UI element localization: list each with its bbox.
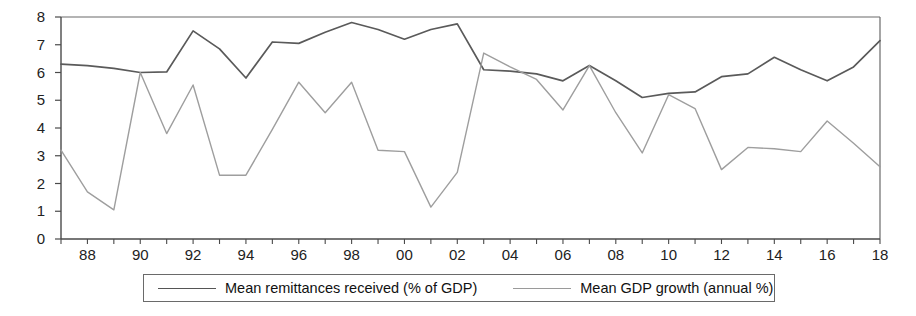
legend-item-remittances: Mean remittances received (% of GDP) [144,275,477,301]
x-axis-tick-label: 02 [437,247,477,262]
line-chart-plot [0,0,916,316]
x-axis-tick-label: 10 [649,247,689,262]
y-axis-tick-label: 6 [21,65,45,80]
x-axis-tick-label: 94 [226,247,266,262]
series-line-remittances [61,23,880,98]
chart-container: 0123456788890929496980002040608101214161… [0,0,916,316]
x-axis-tick-label: 92 [173,247,213,262]
x-axis-tick-label: 90 [120,247,160,262]
series-line-gdp-growth [61,53,880,210]
x-axis-tick-label: 14 [754,247,794,262]
y-axis-tick-label: 3 [21,148,45,163]
legend-label-remittances: Mean remittances received (% of GDP) [225,281,477,296]
x-axis-tick-label: 16 [807,247,847,262]
x-axis-tick-label: 08 [596,247,636,262]
y-axis-tick-label: 1 [21,203,45,218]
x-axis-tick-label: 12 [701,247,741,262]
x-axis-tick-label: 98 [332,247,372,262]
legend-line-swatch-gdp-growth-icon [513,288,571,289]
x-axis-tick-label: 06 [543,247,583,262]
y-axis-tick-label: 8 [21,9,45,24]
x-axis-tick-label: 18 [860,247,900,262]
x-axis-tick-label: 00 [384,247,424,262]
x-axis-tick-label: 88 [67,247,107,262]
y-axis-tick-label: 2 [21,176,45,191]
y-axis-tick-label: 7 [21,37,45,52]
y-axis-tick-label: 4 [21,120,45,135]
y-axis-tick-label: 0 [21,231,45,246]
y-axis-tick-label: 5 [21,92,45,107]
x-axis-tick-label: 04 [490,247,530,262]
legend-item-gdp-growth: Mean GDP growth (annual %) [499,275,773,301]
legend-line-swatch-remittances-icon [158,288,216,289]
legend-label-gdp-growth: Mean GDP growth (annual %) [580,281,773,296]
x-axis-tick-label: 96 [279,247,319,262]
chart-legend: Mean remittances received (% of GDP) Mea… [143,274,775,302]
